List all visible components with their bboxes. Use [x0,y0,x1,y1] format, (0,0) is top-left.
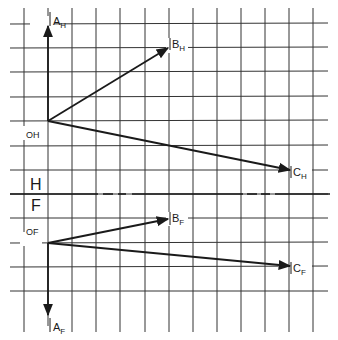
label-of: OF [26,227,39,237]
label-af: AF [53,321,65,336]
label-ah: AH [53,15,66,30]
vector-of-bf [48,219,168,243]
fold-label-h: H [30,176,42,193]
fold-label-f: F [31,197,41,214]
label-oh: OH [26,130,40,140]
vector-oh-bh [48,48,168,121]
orthographic-vector-diagram: AH BH CH OH BF CF AF OF H F [0,0,338,340]
